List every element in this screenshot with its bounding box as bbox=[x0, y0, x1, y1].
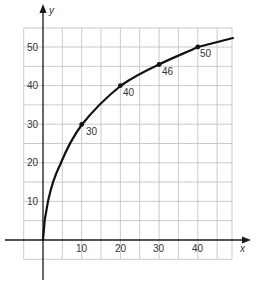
x-axis-label: x bbox=[239, 243, 246, 254]
x-tick: 20 bbox=[115, 243, 127, 254]
y-tick: 40 bbox=[27, 80, 39, 91]
y-tick: 50 bbox=[27, 42, 39, 53]
y-tick: 30 bbox=[27, 119, 39, 130]
y-axis-arrow-icon bbox=[40, 4, 47, 13]
grid bbox=[24, 28, 232, 259]
x-tick: 40 bbox=[192, 243, 204, 254]
curve-line bbox=[43, 38, 233, 240]
y-tick: 10 bbox=[27, 196, 39, 207]
data-point bbox=[79, 122, 84, 127]
point-label: 46 bbox=[162, 66, 174, 77]
point-label: 40 bbox=[123, 87, 135, 98]
x-tick: 10 bbox=[76, 243, 88, 254]
point-label: 50 bbox=[200, 48, 212, 59]
y-tick: 20 bbox=[27, 157, 39, 168]
data-point bbox=[157, 62, 162, 67]
y-axis-label: y bbox=[48, 5, 55, 16]
x-tick: 30 bbox=[153, 243, 165, 254]
chart-canvas: y x 50 40 30 20 10 10 20 30 40 30 40 46 … bbox=[0, 0, 261, 290]
point-label: 30 bbox=[86, 126, 98, 137]
